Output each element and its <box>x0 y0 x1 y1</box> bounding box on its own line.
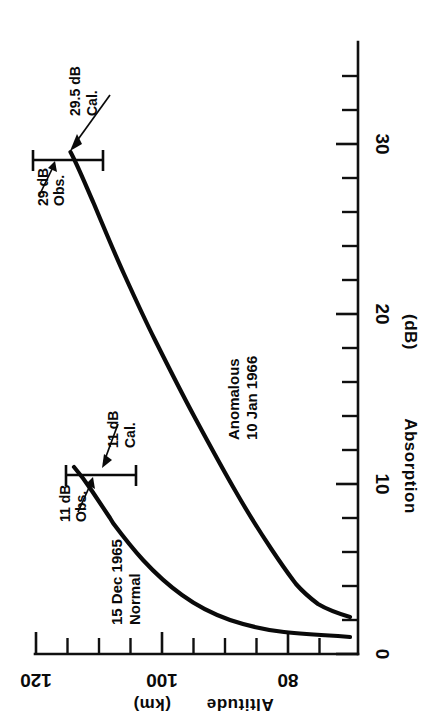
altitude-axis: 120 100 80 (km) Altitude <box>20 632 358 714</box>
absorption-ticklabel-30: 30 <box>372 133 393 154</box>
absorption-axis-unit: (dB) <box>401 314 420 350</box>
series-label-anomalous-line1: Anomalous <box>225 358 242 440</box>
absorption-ticklabel-10: 10 <box>372 473 393 494</box>
upper-obs-label-line1: 29 dB <box>35 168 51 206</box>
upper-obs-label-line2: Obs. <box>51 175 67 206</box>
altitude-ticklabel-80: 80 <box>277 670 298 691</box>
altitude-ticklabel-120: 120 <box>20 670 52 691</box>
absorption-axis-title: Absorption <box>401 418 420 514</box>
lower-obs-label-line2: Obs. <box>73 491 89 522</box>
upper-error-bar <box>33 150 103 171</box>
absorption-axis: 0 10 20 30 Absorption (dB) <box>336 42 420 659</box>
series-label-normal-line2: Normal <box>126 573 143 625</box>
lower-cal-label-line1: 11 dB <box>105 411 121 448</box>
altitude-ticklabel-100: 100 <box>146 670 178 691</box>
figure-container: 0 10 20 30 Absorption (dB) 120 100 80 (k… <box>0 0 424 722</box>
altitude-axis-title: Altitude <box>206 695 273 714</box>
upper-cal-label-line2: Cal. <box>84 90 100 116</box>
absorption-ticklabel-20: 20 <box>372 303 393 324</box>
absorption-ticklabel-0: 0 <box>372 649 393 660</box>
lower-obs-label-line1: 11 dB <box>57 485 73 522</box>
series-label-normal-line1: 15 Dec 1965 <box>108 539 125 625</box>
altitude-axis-unit: (km) <box>133 695 171 714</box>
series-label-anomalous-line2: 10 Jan 1966 <box>243 356 260 440</box>
upper-cal-label-line1: 29.5 dB <box>67 66 83 116</box>
lower-cal-label-line2: Cal. <box>122 422 138 448</box>
